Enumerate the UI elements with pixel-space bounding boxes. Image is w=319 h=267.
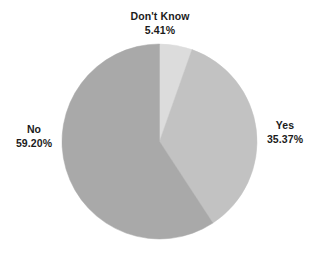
pie-label-dont-know-percent: 5.41% xyxy=(113,24,207,38)
pie-label-no: No 59.20% xyxy=(2,123,66,150)
pie-label-dont-know-category: Don't Know xyxy=(113,10,207,24)
pie-chart-figure: Don't Know 5.41% Yes 35.37% No 59.20% xyxy=(0,0,319,267)
pie-label-yes: Yes 35.37% xyxy=(253,119,317,146)
pie-label-no-percent: 59.20% xyxy=(2,137,66,151)
pie-label-yes-percent: 35.37% xyxy=(253,133,317,147)
pie-slice-group xyxy=(62,44,257,239)
pie-label-dont-know: Don't Know 5.41% xyxy=(113,10,207,37)
pie-label-yes-category: Yes xyxy=(253,119,317,133)
pie-label-no-category: No xyxy=(2,123,66,137)
